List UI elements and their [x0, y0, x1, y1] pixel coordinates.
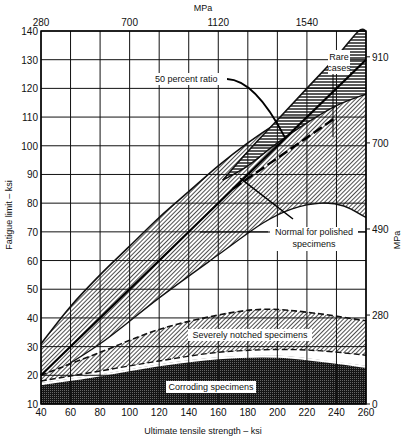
annotation-50-percent-ratio-text: 50 percent ratio [155, 74, 218, 84]
x-tick-label: 80 [95, 407, 107, 418]
x-tick-label: 200 [269, 407, 286, 418]
y-tick-label: 50 [27, 284, 39, 295]
right-tick-label: 490 [372, 224, 389, 235]
top-tick-label: 1120 [208, 17, 230, 28]
x-tick-label: 160 [210, 407, 227, 418]
x-tick-label: 60 [65, 407, 77, 418]
y-tick-label: 130 [21, 55, 38, 66]
x-tick-label: 180 [239, 407, 256, 418]
y-tick-label: 60 [27, 256, 39, 267]
annotation-50-percent-ratio: 50 percent ratio [155, 73, 227, 85]
y-tick-label: 10 [27, 399, 39, 410]
right-tick-label: 700 [372, 138, 389, 149]
top-tick-label: 1540 [296, 17, 319, 28]
annotation-severely-notched: Severely notched specimens [188, 329, 312, 341]
rare-cases-text-1: Rare [329, 52, 349, 62]
x-tick-label: 120 [151, 407, 168, 418]
normal-polished-text-2: specimens [292, 239, 336, 249]
top-tick-label: 700 [121, 17, 138, 28]
y-tick-label: 40 [27, 313, 39, 324]
annotation-corroding-text: Corroding specimens [168, 382, 254, 392]
x-tick-label: 220 [299, 407, 316, 418]
y-tick-label: 110 [22, 112, 38, 123]
right-axis-label: MPa [392, 231, 402, 250]
y-tick-label: 80 [27, 198, 39, 209]
right-tick-label: 0 [372, 399, 378, 410]
x-tick-label: 240 [328, 407, 345, 418]
y-tick-label: 120 [21, 83, 38, 94]
y-tick-label: 90 [27, 169, 39, 180]
fatigue-chart: 4060801001201401601802002202402601020304… [0, 0, 411, 445]
y-tick-label: 20 [27, 370, 39, 381]
y-tick-label: 70 [27, 227, 39, 238]
annotation-normal-polished: Normal for polishedspecimens [268, 227, 358, 251]
x-tick-label: 100 [121, 407, 138, 418]
y-tick-label: 30 [27, 342, 39, 353]
annotation-rare-cases: Rarecases [327, 50, 351, 74]
x-tick-label: 140 [180, 407, 197, 418]
x-axis-label: Ultimate tensile strength – ksi [144, 426, 262, 436]
normal-polished-text-1: Normal for polished [275, 227, 353, 237]
annotation-severely-notched-text: Severely notched specimens [192, 330, 308, 340]
top-tick-label: 280 [33, 17, 50, 28]
right-tick-label: 910 [372, 52, 389, 63]
y-axis-label: Fatigue limit – ksi [4, 180, 14, 250]
y-tick-label: 100 [21, 141, 38, 152]
annotation-corroding: Corroding specimens [166, 381, 256, 393]
rare-cases-text-2: cases [327, 63, 351, 73]
right-tick-label: 280 [372, 310, 389, 321]
top-axis-label: MPa [194, 3, 213, 13]
